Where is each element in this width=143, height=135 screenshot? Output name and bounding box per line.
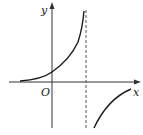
origin-label: O [41,86,50,99]
x-axis-label: x [133,86,140,99]
x-axis-arrow-icon [134,80,141,85]
y-axis-arrow-icon [50,2,55,9]
function-graph: y x O [0,0,143,135]
y-axis-label: y [40,4,48,17]
right-curve-branch [94,89,131,128]
